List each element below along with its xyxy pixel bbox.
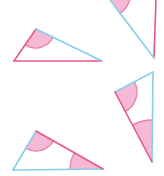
triangle-bottom-left — [13, 131, 103, 170]
triangle-top-left — [14, 29, 102, 61]
triangle-bottom-right-clipped — [115, 72, 153, 162]
triangle-figure — [0, 0, 164, 176]
triangle-top-right-clipped — [104, 0, 157, 58]
triangle-bottom-right-clipped-edge-AC — [152, 72, 153, 162]
triangle-bottom-left-edge-BC — [13, 169, 103, 170]
triangle-top-right-clipped-edge-BC — [154, 0, 157, 58]
triangle-diagram — [0, 0, 164, 176]
triangle-bottom-left-edge-AC — [36, 131, 103, 169]
triangle-top-right-clipped-edge-AC — [104, 0, 154, 58]
